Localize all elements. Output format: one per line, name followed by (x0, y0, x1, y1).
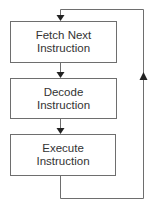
execute-box-line1: Execute (42, 142, 84, 155)
execute-box-line2: Instruction (36, 155, 89, 168)
decode-box-line1: Decode (44, 86, 84, 99)
fetch-box-line2: Instruction (37, 42, 90, 55)
decode-box-line2: Instruction (37, 99, 90, 112)
fetch-box-line1: Fetch Next (36, 29, 92, 42)
decode-instruction-box: Decode Instruction (10, 78, 117, 119)
execute-instruction-box: Execute Instruction (10, 134, 116, 176)
arrowhead-up-loop-icon (140, 72, 148, 80)
fetch-next-instruction-box: Fetch Next Instruction (10, 21, 117, 63)
